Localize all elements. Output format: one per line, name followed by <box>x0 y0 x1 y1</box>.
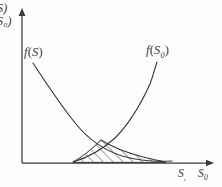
curve-f-of-s <box>33 63 172 161</box>
curve-label-left-close-paren: ) <box>39 45 43 59</box>
x-axis-label-1-subscript: , <box>184 173 186 182</box>
x-axis-label-s-zero: S0 <box>198 167 208 182</box>
y-axis-arrow-icon <box>19 8 26 16</box>
curve-label-f-of-s-zero: f(S0) <box>146 44 169 60</box>
x-axis-label-2-subscript: 0 <box>204 173 208 182</box>
hatched-region <box>60 130 180 170</box>
x-axis-arrow-icon <box>206 160 214 166</box>
y-axis-label: S) S₀) <box>0 2 12 27</box>
y-axis-group <box>19 8 26 163</box>
x-axis-label-s: S, <box>178 167 186 182</box>
plot-svg <box>0 0 222 187</box>
figure-canvas: S) S₀) f(S) f(S0) S, S0 <box>0 0 222 187</box>
curve-label-f-of-s: f(S) <box>24 46 43 59</box>
y-axis-label-line-1: S) <box>0 2 12 15</box>
y-axis-label-line-2: S₀) <box>0 15 12 28</box>
curve-label-right-close-paren: ) <box>165 43 169 57</box>
